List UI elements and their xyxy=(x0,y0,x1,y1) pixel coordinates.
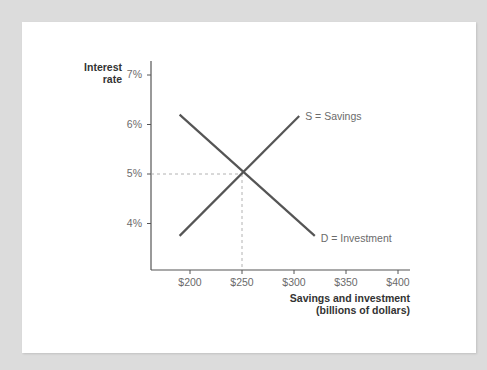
y-axis-title: Interest rate xyxy=(70,61,122,85)
x-tick-label: $400 xyxy=(378,276,418,288)
investment-demand-line xyxy=(180,115,315,236)
x-axis-title: Savings and investment (billions of doll… xyxy=(270,292,410,316)
y-tick-label: 4% xyxy=(127,217,142,229)
y-axis-title-line1: Interest xyxy=(70,61,122,73)
supply-demand-chart xyxy=(0,0,487,370)
y-tick-label: 6% xyxy=(127,118,142,130)
x-tick-label: $250 xyxy=(222,276,262,288)
savings-line-label: S = Savings xyxy=(305,110,361,122)
x-tick-label: $200 xyxy=(170,276,210,288)
x-axis-title-line2: (billions of dollars) xyxy=(270,304,410,316)
x-axis-title-line1: Savings and investment xyxy=(270,292,410,304)
series-lines xyxy=(180,115,315,236)
investment-line-label: D = Investment xyxy=(321,232,392,244)
x-tick-label: $350 xyxy=(326,276,366,288)
y-axis-title-line2: rate xyxy=(70,73,122,85)
y-tick-label: 7% xyxy=(127,68,142,80)
savings-supply-line xyxy=(180,116,300,236)
x-tick-label: $300 xyxy=(274,276,314,288)
y-tick-label: 5% xyxy=(127,167,142,179)
